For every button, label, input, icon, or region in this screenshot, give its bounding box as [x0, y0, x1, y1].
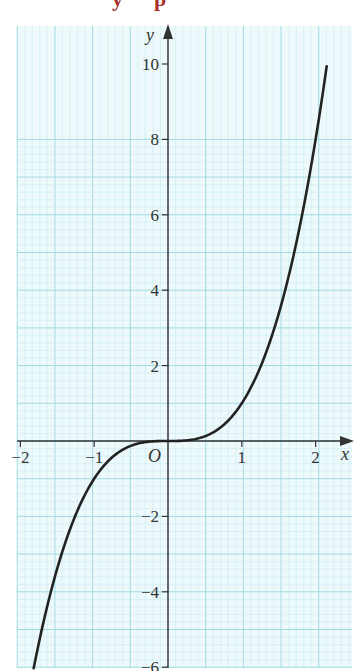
y-tick-label: 8	[151, 130, 160, 149]
x-tick-label: −1	[85, 448, 103, 467]
x-tick-label: −2	[11, 448, 29, 467]
x-axis-label: x	[340, 444, 349, 464]
x-tick-label: 1	[238, 448, 247, 467]
y-tick-label: 2	[151, 357, 160, 376]
y-tick-label: −6	[141, 658, 159, 671]
y-tick-label: −4	[141, 583, 160, 602]
y-tick-label: 10	[142, 55, 159, 74]
origin-label: O	[148, 446, 161, 466]
y-tick-label: −2	[141, 507, 159, 526]
cubic-graph: −2−112−6−4−2246810 x y O	[0, 0, 363, 671]
y-tick-label: 6	[151, 206, 160, 225]
graph-paper-grid	[17, 26, 352, 668]
y-tick-label: 4	[151, 281, 160, 300]
y-axis-label: y	[144, 25, 154, 45]
x-tick-label: 2	[311, 448, 320, 467]
